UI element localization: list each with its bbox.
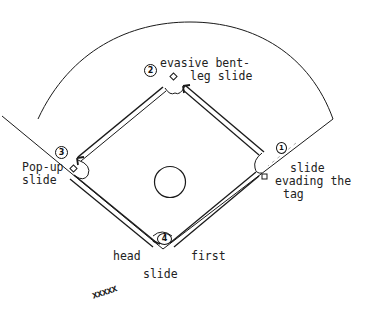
basepath-home-first-a: [170, 172, 256, 243]
basepath-home-third-b: [70, 179, 153, 247]
label-home-slide: slide: [143, 268, 178, 281]
label-first-base-line3: tag: [283, 188, 304, 201]
first-base: [262, 174, 267, 179]
basepath-home-first-b: [174, 176, 259, 247]
basepath-first-second-a: [186, 86, 264, 152]
marker-home-plate: 4: [157, 233, 172, 245]
marker-third-base: 3: [55, 146, 68, 159]
label-third-base-line2: slide: [22, 174, 57, 187]
label-second-base-line2: leg slide: [190, 70, 252, 83]
third-base: [70, 165, 77, 172]
basepath-third-second-b: [81, 91, 166, 161]
pitchers-mound: [155, 167, 186, 198]
first-base-arc: [255, 153, 262, 173]
marker-first-base: 1: [276, 142, 287, 154]
marker-second-base: 2: [144, 64, 157, 77]
outfield-arc: [38, 22, 333, 119]
basepath-first-second-b: [183, 90, 259, 155]
label-home-first: first: [191, 250, 226, 263]
basepath-third-second-a: [78, 87, 163, 157]
second-base: [170, 73, 177, 80]
second-base-arc: [165, 86, 185, 94]
label-home-head: head: [113, 250, 141, 263]
basepath-home-third-a: [74, 175, 157, 243]
